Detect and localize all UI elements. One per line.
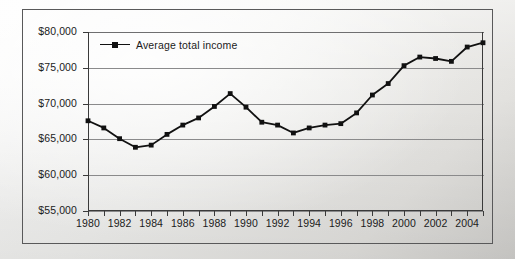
data-point-marker [417,55,422,60]
data-point-marker [149,143,154,148]
data-point-marker [338,121,343,126]
data-point-marker [291,131,296,136]
data-point-marker [133,145,138,150]
data-point-marker [481,40,486,45]
data-point-marker [165,132,170,137]
data-point-marker [275,123,280,128]
chart-figure: $55,000$60,000$65,000$70,000$75,000$80,0… [0,0,515,259]
chart-legend: Average total income [100,38,237,52]
data-point-marker [370,93,375,98]
data-point-marker [433,56,438,61]
data-point-marker [465,45,470,50]
data-point-marker [244,105,249,110]
series-line [88,43,483,148]
data-point-marker [117,136,122,141]
data-point-marker [354,111,359,116]
data-point-marker [180,123,185,128]
legend-line-marker-icon [100,40,130,50]
data-point-marker [259,120,264,125]
data-point-marker [449,59,454,64]
data-point-marker [323,123,328,128]
data-point-marker [86,118,91,123]
data-point-marker [386,81,391,86]
legend-entry-label: Average total income [136,39,237,51]
data-point-marker [101,126,106,131]
data-point-marker [228,91,233,96]
data-point-marker [307,126,312,131]
data-point-marker [196,116,201,121]
data-point-marker [402,63,407,68]
series-layer [0,0,515,259]
data-point-marker [212,104,217,109]
line-chart: $55,000$60,000$65,000$70,000$75,000$80,0… [0,0,515,259]
